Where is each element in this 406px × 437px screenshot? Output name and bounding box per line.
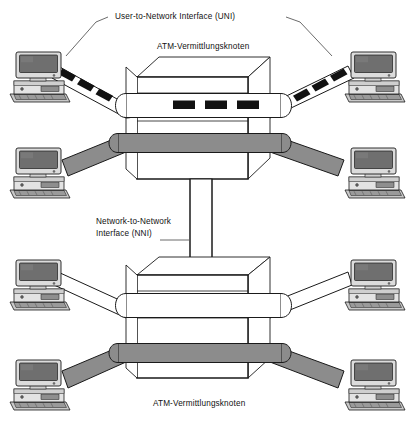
workstation-top-right[interactable]	[345, 52, 405, 102]
nni-label-line1: Network-to-Network	[96, 216, 188, 228]
gray-pipe-through-switch-top	[109, 134, 291, 153]
workstation-middle-right[interactable]	[345, 148, 405, 198]
uni-link-low-left	[54, 272, 126, 318]
atm-network-diagram: User-to-Network Interface (UNI) ATM-Verm…	[0, 0, 406, 437]
nni-label-line2: Interface (NNI)	[96, 228, 152, 239]
workstation-bottom-right[interactable]	[345, 360, 405, 410]
switch-bottom-label: ATM-Vermittlungsknoten	[153, 398, 245, 409]
gray-pipe-through-switch-bottom	[109, 344, 291, 363]
workstation-lower-left[interactable]	[10, 260, 70, 310]
workstation-middle-left[interactable]	[10, 148, 70, 198]
cell-pipe-through-switch-top	[116, 94, 292, 118]
atm-cells-in-switch-top	[173, 101, 259, 110]
switch-top-label: ATM-Vermittlungsknoten	[157, 41, 249, 52]
workstation-top-left[interactable]	[10, 52, 70, 102]
diagram-canvas	[0, 0, 406, 437]
cell-pipe-through-switch-bottom	[116, 294, 292, 318]
workstation-bottom-left[interactable]	[10, 360, 70, 410]
uni-label: User-to-Network Interface (UNI)	[115, 11, 235, 22]
workstation-lower-right[interactable]	[345, 260, 405, 310]
